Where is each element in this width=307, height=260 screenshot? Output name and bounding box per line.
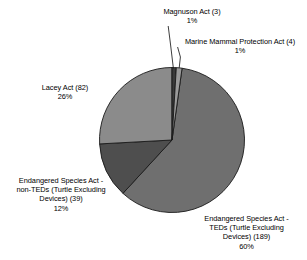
slice-label-magnuson-percent: 1% xyxy=(146,16,238,25)
slice-label-marine-mammal-name: Marine Mammal Protection Act (4) xyxy=(175,37,305,46)
slice-label-marine-mammal: Marine Mammal Protection Act (4) 1% xyxy=(175,37,305,55)
slice-label-esa-nonteds-line1: Endangered Species Act - xyxy=(0,176,122,185)
slice-label-esa-nonteds-line3: Devices) (39) xyxy=(0,194,122,203)
slice-label-magnuson-name: Magnuson Act (3) xyxy=(146,7,238,16)
slice-label-esa-nonteds-line2: non-TEDs (Turtle Excluding xyxy=(0,185,122,194)
slice-label-esa-teds-line3: Devices) (189) xyxy=(186,232,307,241)
slice-label-esa-nonteds: Endangered Species Act - non-TEDs (Turtl… xyxy=(0,176,122,213)
slice-label-marine-mammal-percent: 1% xyxy=(175,46,305,55)
slice-label-lacey: Lacey Act (82) 26% xyxy=(20,83,110,101)
slice-label-magnuson: Magnuson Act (3) 1% xyxy=(146,7,238,25)
slice-label-esa-nonteds-percent: 12% xyxy=(0,204,122,213)
pie-slice-lacey[interactable] xyxy=(100,68,172,144)
pie-chart: Magnuson Act (3) 1% Marine Mammal Protec… xyxy=(0,0,307,260)
slice-label-esa-teds-line2: TEDs (Turtle Excluding xyxy=(186,223,307,232)
slice-label-esa-teds-percent: 60% xyxy=(186,242,307,251)
leader-line-magnuson xyxy=(168,26,173,69)
slice-label-lacey-name: Lacey Act (82) xyxy=(20,83,110,92)
slice-label-lacey-percent: 26% xyxy=(20,92,110,101)
slice-label-esa-teds-line1: Endangered Species Act - xyxy=(186,214,307,223)
slice-label-esa-teds: Endangered Species Act - TEDs (Turtle Ex… xyxy=(186,214,307,251)
